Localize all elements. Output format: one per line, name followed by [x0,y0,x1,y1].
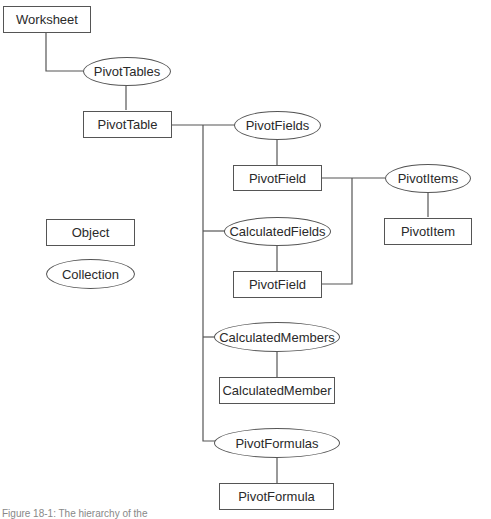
node-calculatedfields: CalculatedFields [224,217,331,246]
node-pivotfields: PivotFields [234,111,321,140]
node-calculatedmembers: CalculatedMembers [214,322,340,352]
node-pivotfield-1: PivotField [233,165,322,191]
node-pivotitems: PivotItems [385,164,471,193]
legend-object: Object [46,219,135,246]
node-pivotformulas: PivotFormulas [214,428,340,458]
node-pivotitem: PivotItem [384,218,472,245]
node-pivottables: PivotTables [83,57,171,86]
figure-caption: Figure 18-1: The hierarchy of the [2,508,147,519]
node-pivottable: PivotTable [83,111,172,138]
node-calculatedmember: CalculatedMember [219,377,335,404]
node-worksheet: Worksheet [3,6,91,33]
node-pivotformula: PivotFormula [219,483,334,510]
legend-collection: Collection [46,259,135,289]
node-pivotfield-2: PivotField [233,271,322,298]
